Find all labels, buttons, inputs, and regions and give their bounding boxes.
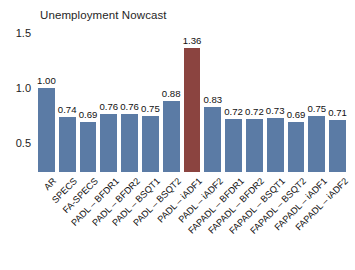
bar[interactable] — [142, 116, 159, 173]
bar-value-label: 0.88 — [162, 89, 181, 99]
chart-title: Unemployment Nowcast — [40, 9, 167, 21]
bar-slot: 0.69 — [80, 28, 97, 172]
bar-slot: 0.73 — [267, 28, 284, 172]
bar[interactable] — [267, 118, 284, 172]
bar-value-label: 0.72 — [245, 107, 264, 117]
bar-slot: 0.74 — [59, 28, 76, 172]
bar-slot: 0.69 — [288, 28, 305, 172]
bar-slot: 1.00 — [38, 28, 55, 172]
bar-slot: 0.88 — [163, 28, 180, 172]
bar[interactable] — [184, 48, 201, 172]
bar[interactable] — [204, 107, 221, 172]
bar-value-label: 0.69 — [287, 110, 306, 120]
bar[interactable] — [100, 114, 117, 172]
bar-value-label: 0.83 — [203, 95, 222, 105]
bar-value-label: 1.36 — [183, 36, 202, 46]
bar[interactable] — [59, 117, 76, 172]
bar-value-label: 0.69 — [79, 110, 98, 120]
y-axis-tick-label: 1.5 — [16, 27, 31, 39]
x-axis-tick-labels: ARSPECSFA-SPECSPADL – BFDR1PADL – BFDR2P… — [36, 172, 348, 270]
bar[interactable] — [80, 122, 97, 172]
bar-slot: 0.75 — [142, 28, 159, 172]
bar-value-label: 0.71 — [328, 108, 347, 118]
bar[interactable] — [308, 116, 325, 173]
bar-slot: 0.71 — [329, 28, 346, 172]
bar[interactable] — [38, 88, 55, 172]
bar[interactable] — [246, 119, 263, 172]
bar-slot: 0.72 — [246, 28, 263, 172]
bar-value-label: 1.00 — [37, 76, 56, 86]
x-axis-tick-label: AR — [42, 176, 58, 192]
bar[interactable] — [163, 101, 180, 172]
bar[interactable] — [288, 122, 305, 172]
bar-slot: 0.83 — [204, 28, 221, 172]
y-axis-tick-label: 1.0 — [16, 82, 31, 94]
y-axis-tick-label: 0.5 — [16, 137, 31, 149]
plot-area: 1.000.740.690.760.760.750.881.360.830.72… — [36, 28, 348, 172]
bar[interactable] — [225, 119, 242, 172]
bar-value-label: 0.72 — [224, 107, 243, 117]
bar-slot: 0.76 — [121, 28, 138, 172]
bar-value-label: 0.76 — [120, 102, 139, 112]
bar-slot: 0.76 — [100, 28, 117, 172]
bar[interactable] — [329, 120, 346, 172]
bar-value-label: 0.75 — [307, 104, 326, 114]
bar-value-label: 0.75 — [141, 104, 160, 114]
bar-chart-figure: Unemployment Nowcast 0.51.01.5 1.000.740… — [0, 0, 355, 270]
bar-slot: 0.72 — [225, 28, 242, 172]
bar-value-label: 0.76 — [99, 102, 118, 112]
bar-slot: 0.75 — [308, 28, 325, 172]
bar-slot: 1.36 — [184, 28, 201, 172]
bar[interactable] — [121, 114, 138, 172]
bar-value-label: 0.73 — [266, 106, 285, 116]
bar-value-label: 0.74 — [58, 105, 77, 115]
